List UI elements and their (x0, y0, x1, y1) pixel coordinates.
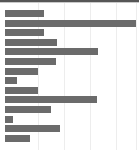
plot-area (0, 3, 139, 150)
bar (5, 116, 13, 123)
bar (5, 20, 136, 27)
bar (5, 106, 51, 113)
bar (5, 68, 38, 75)
bar (5, 39, 57, 46)
bar (5, 125, 60, 132)
bar (5, 58, 56, 65)
x-gridline (136, 3, 137, 150)
bar (5, 29, 44, 36)
bar (5, 87, 38, 94)
bar (5, 135, 30, 142)
bar-chart-thumbnail (0, 0, 139, 150)
bar (5, 96, 97, 103)
bar (5, 77, 17, 84)
bar (5, 10, 44, 17)
bar (5, 48, 98, 55)
